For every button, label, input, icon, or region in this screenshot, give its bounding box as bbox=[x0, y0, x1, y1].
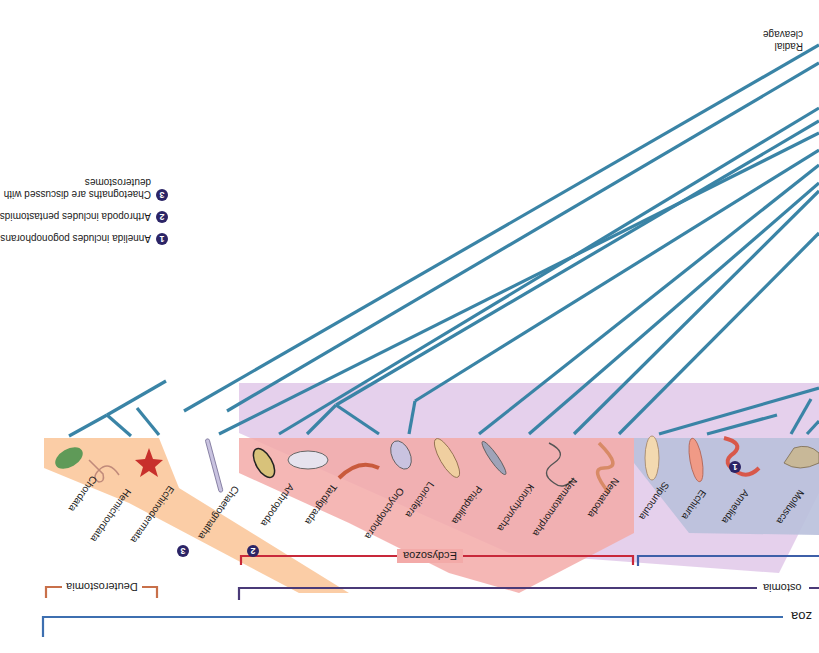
notes-legend: 1 Annelida includes pogonophorans 2 Arth… bbox=[0, 177, 168, 245]
svg-text:Chaetognaths are discussed wit: Chaetognaths are discussed with bbox=[4, 189, 151, 200]
svg-text:Arthropoda includes pentastomi: Arthropoda includes pentastomids bbox=[0, 211, 151, 222]
svg-text:1: 1 bbox=[159, 234, 164, 244]
tardigrada-illustration bbox=[288, 451, 328, 469]
radial-cleavage-label: Radial cleavage bbox=[763, 29, 803, 52]
phylogenetic-tree-figure: ostomia zoa Ecdysozoa Deuterostomia bbox=[0, 0, 819, 653]
protostomia-label: ostomia bbox=[762, 582, 801, 594]
tree-canvas: ostomia zoa Ecdysozoa Deuterostomia bbox=[0, 0, 819, 653]
deuterostomia-label: Deuterostomia bbox=[65, 581, 137, 593]
svg-text:3: 3 bbox=[159, 190, 164, 200]
svg-text:cleavage: cleavage bbox=[763, 29, 803, 40]
sipuncula-illustration bbox=[645, 436, 659, 480]
svg-text:2: 2 bbox=[159, 212, 164, 222]
tree-branches bbox=[69, 45, 819, 436]
note-1: 1 Annelida includes pogonophorans bbox=[0, 233, 168, 245]
ecdysozoa-label: Ecdysozoa bbox=[402, 550, 457, 562]
note-3: 3 Chaetognaths are discussed with deuter… bbox=[4, 177, 168, 201]
svg-text:Annelida includes pogonophoran: Annelida includes pogonophorans bbox=[0, 233, 151, 244]
svg-text:Radial: Radial bbox=[775, 41, 803, 52]
badge-chaetognatha: 3 bbox=[177, 545, 189, 557]
svg-text:3: 3 bbox=[180, 546, 185, 556]
badge-annelida: 1 bbox=[729, 461, 741, 473]
svg-text:2: 2 bbox=[250, 546, 255, 556]
bilateria-label: zoa bbox=[790, 609, 812, 624]
svg-text:1: 1 bbox=[732, 462, 737, 472]
note-2: 2 Arthropoda includes pentastomids bbox=[0, 211, 168, 223]
chaetognatha-illustration bbox=[205, 438, 223, 492]
bilateria-bracket bbox=[43, 617, 819, 637]
badge-arthropoda-marker: 2 bbox=[247, 545, 259, 557]
svg-text:deuterostomes: deuterostomes bbox=[85, 177, 151, 188]
